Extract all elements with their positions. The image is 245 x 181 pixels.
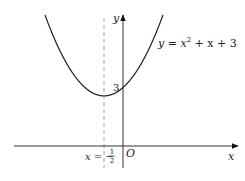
- origin-label: O: [126, 147, 135, 160]
- frac-denominator: 2: [110, 157, 114, 165]
- equation-label: y = x2 + x + 3: [157, 36, 237, 50]
- equation-lhs: y = x: [157, 37, 187, 50]
- y-axis-label: y: [112, 12, 120, 25]
- frac-numerator: 1: [110, 148, 114, 156]
- x-axis-label: x: [228, 150, 235, 163]
- parabola-graph: y x O 3 y = x2 + x + 3 x = − 1 2: [0, 0, 245, 181]
- equation-rhs: + x + 3: [191, 37, 237, 50]
- y-intercept-label: 3: [113, 82, 119, 93]
